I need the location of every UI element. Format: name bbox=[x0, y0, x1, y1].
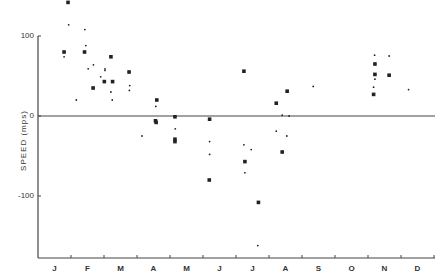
y-tick-label: 100 bbox=[0, 32, 34, 40]
dot-marker bbox=[286, 135, 288, 137]
month-label: O bbox=[342, 264, 362, 273]
square-marker bbox=[373, 73, 377, 77]
dot-marker bbox=[141, 135, 143, 137]
dot-marker bbox=[374, 54, 376, 56]
month-label: F bbox=[78, 264, 98, 273]
dot-marker bbox=[104, 70, 106, 72]
square-marker bbox=[103, 80, 107, 84]
y-axis-title: SPEED (mps) bbox=[19, 96, 28, 186]
dot-marker bbox=[312, 86, 314, 88]
dot-marker bbox=[63, 56, 65, 58]
dot-marker bbox=[129, 90, 131, 92]
plot-area bbox=[0, 0, 443, 280]
y-tick-label: -100 bbox=[0, 192, 34, 200]
dot-marker bbox=[243, 144, 245, 146]
square-marker bbox=[127, 70, 131, 74]
dot-marker bbox=[288, 115, 290, 117]
square-marker bbox=[242, 69, 246, 73]
month-label: M bbox=[177, 264, 197, 273]
dot-marker bbox=[373, 86, 375, 88]
month-label: J bbox=[45, 264, 65, 273]
month-label: J bbox=[243, 264, 263, 273]
square-marker bbox=[154, 121, 158, 125]
dot-marker bbox=[257, 245, 259, 247]
dot-marker bbox=[388, 55, 390, 57]
square-marker bbox=[257, 201, 261, 205]
dot-marker bbox=[250, 149, 252, 151]
square-marker bbox=[280, 150, 284, 154]
dot-marker bbox=[209, 154, 211, 156]
dot-marker bbox=[87, 68, 89, 70]
dot-marker bbox=[68, 24, 70, 26]
month-label: S bbox=[309, 264, 329, 273]
dot-marker bbox=[174, 128, 176, 130]
y-tick-label: 0 bbox=[0, 112, 34, 120]
square-marker bbox=[111, 80, 115, 84]
square-marker bbox=[173, 115, 177, 119]
dot-marker bbox=[275, 130, 277, 132]
square-marker bbox=[274, 101, 278, 105]
dot-marker bbox=[244, 172, 246, 174]
dot-marker bbox=[85, 45, 87, 47]
dot-marker bbox=[374, 78, 376, 80]
dot-marker bbox=[100, 76, 102, 78]
square-marker bbox=[66, 1, 70, 5]
square-marker bbox=[109, 55, 113, 59]
dot-marker bbox=[93, 64, 95, 66]
dot-marker bbox=[111, 99, 113, 101]
month-label: D bbox=[408, 264, 428, 273]
square-marker bbox=[208, 117, 212, 121]
dot-marker bbox=[104, 68, 106, 70]
dot-marker bbox=[110, 91, 112, 93]
dot-marker bbox=[209, 141, 211, 143]
month-label: M bbox=[111, 264, 131, 273]
square-marker bbox=[373, 62, 377, 66]
square-marker bbox=[243, 160, 247, 164]
square-marker bbox=[285, 89, 289, 93]
dot-marker bbox=[408, 89, 410, 91]
square-marker bbox=[91, 86, 95, 90]
square-marker bbox=[62, 50, 66, 54]
month-label: A bbox=[276, 264, 296, 273]
dot-marker bbox=[75, 99, 77, 101]
month-label: J bbox=[210, 264, 230, 273]
square-marker bbox=[173, 140, 177, 144]
dot-marker bbox=[129, 85, 131, 87]
square-marker bbox=[372, 93, 376, 97]
dot-marker bbox=[84, 29, 86, 31]
square-marker bbox=[207, 178, 211, 182]
square-marker bbox=[155, 98, 159, 102]
square-marker bbox=[387, 73, 391, 77]
dot-marker bbox=[155, 106, 157, 108]
square-marker bbox=[83, 50, 87, 54]
month-label: N bbox=[375, 264, 395, 273]
month-label: A bbox=[144, 264, 164, 273]
dot-marker bbox=[281, 114, 283, 116]
